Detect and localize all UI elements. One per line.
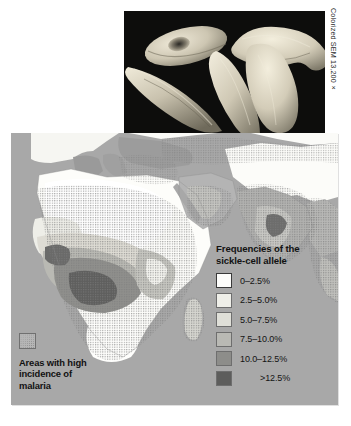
sem-micrograph-photo (124, 11, 325, 135)
frequency-legend: Frequencies of the sickle-cell allele 0–… (216, 243, 338, 390)
legend-label-4: 10.0–12.5% (240, 354, 287, 364)
legend-label-1: 2.5–5.0% (240, 295, 277, 305)
sickle-cell-illustration (124, 11, 325, 135)
malaria-legend: Areas with high incidence of malaria (19, 333, 129, 391)
legend-label-5: >12.5% (260, 373, 290, 383)
legend-title-line2: sickle-cell allele (216, 255, 287, 266)
legend-item-0: 0–2.5% (216, 273, 338, 288)
legend-swatch-0 (216, 273, 232, 288)
legend-item-4: 10.0–12.5% (216, 351, 338, 366)
malaria-line3: malaria (19, 380, 51, 391)
legend-swatch-4 (216, 351, 232, 366)
malaria-line2: incidence of (19, 368, 72, 379)
legend-item-1: 2.5–5.0% (216, 293, 338, 308)
malaria-line1: Areas with high (19, 357, 87, 368)
legend-label-3: 7.5–10.0% (240, 334, 282, 344)
legend-label-0: 0–2.5% (240, 276, 270, 286)
stipple-pattern-swatch (19, 333, 36, 349)
legend-label-2: 5.0–7.5% (240, 315, 277, 325)
legend-swatch-2 (216, 312, 232, 327)
legend-item-2: 5.0–7.5% (216, 312, 338, 327)
legend-swatch-5 (216, 371, 232, 386)
frequency-legend-title: Frequencies of the sickle-cell allele (216, 243, 338, 266)
photo-credit-text: Colorized SEM 13,200× (326, 8, 340, 134)
legend-item-5: >12.5% (216, 371, 338, 386)
legend-item-3: 7.5–10.0% (216, 332, 338, 347)
legend-swatch-1 (216, 293, 232, 308)
legend-title-line1: Frequencies of the (216, 243, 300, 254)
legend-swatch-3 (216, 332, 232, 347)
malaria-legend-text: Areas with high incidence of malaria (19, 357, 129, 391)
